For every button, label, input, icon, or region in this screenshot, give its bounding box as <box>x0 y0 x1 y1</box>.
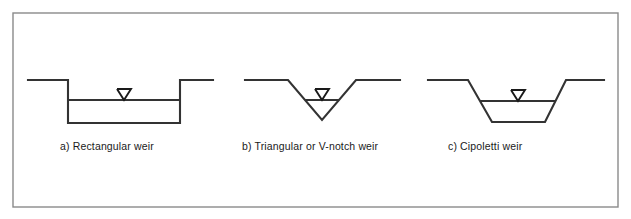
caption-rectangular-weir: a) Rectangular weir <box>60 140 154 152</box>
figure-canvas: a) Rectangular weir b) Triangular or V-n… <box>0 0 631 219</box>
figure-border <box>13 13 618 207</box>
caption-triangular-v-notch-weir: b) Triangular or V-notch weir <box>242 140 379 152</box>
caption-cipoletti-weir: c) Cipoletti weir <box>448 140 523 152</box>
weir-types-figure: a) Rectangular weir b) Triangular or V-n… <box>0 0 631 219</box>
